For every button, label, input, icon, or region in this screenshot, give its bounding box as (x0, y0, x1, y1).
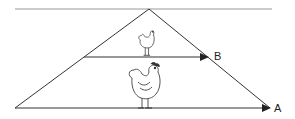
right-side-line (149, 9, 270, 108)
diagram-canvas (0, 0, 295, 119)
small-chicken-icon (139, 31, 154, 56)
arrow-a-label: A (274, 103, 281, 114)
arrow-b (84, 53, 209, 61)
arrow-b-label: B (214, 51, 221, 62)
left-side-line (15, 9, 149, 108)
large-chicken-icon (129, 63, 160, 109)
